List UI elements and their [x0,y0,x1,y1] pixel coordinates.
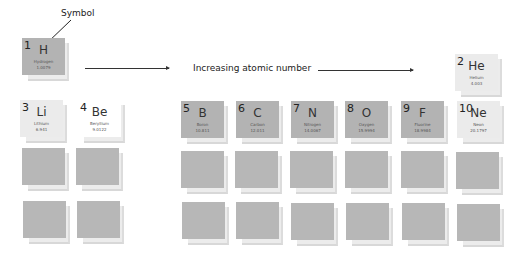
element-symbol: F [401,106,444,120]
element-tile-boron[interactable]: 5 B Boron 10.811 [181,101,224,138]
tile-face: 4 Be Beryllium 9.0122 [78,100,121,137]
element-tile-beryllium[interactable]: 4 Be Beryllium 9.0122 [78,100,121,137]
blank-tile [23,201,66,238]
element-tile-lithium[interactable]: 3 Li Lithium 6.941 [20,100,63,137]
blank-tile [181,151,224,188]
element-symbol: N [291,106,334,120]
atomic-mass: 18.9984 [401,128,444,133]
element-name: Boron [181,122,224,127]
tile-face: 2 He Helium 4.003 [455,54,498,91]
blank-tile [401,151,444,188]
arrow-right [318,70,413,71]
element-tile-fluorine[interactable]: 9 F Fluorine 18.9984 [401,101,444,138]
blank-tile [457,204,500,241]
tile-face: 6 C Carbon 12.011 [236,101,279,138]
element-symbol: Be [78,105,121,119]
tile-face: 8 O Oxygen 15.9994 [345,101,388,138]
atomic-mass: 20.1797 [457,128,500,133]
element-symbol: C [236,106,279,120]
tile-face: 7 N Nitrogen 14.0067 [291,101,334,138]
blank-tile [402,203,445,240]
tile-face: 1 H Hydrogen 1.0079 [22,38,65,75]
element-tile-neon[interactable]: 10 Ne Neon 20.1797 [457,101,500,138]
element-name: Lithium [20,121,63,126]
tile-face: 3 Li Lithium 6.941 [20,100,63,137]
element-symbol: O [345,106,388,120]
blank-tile [182,202,225,239]
atomic-mass: 9.0122 [78,127,121,132]
symbol-annotation: Symbol [61,8,95,18]
element-symbol: Ne [457,106,500,120]
atomic-mass: 14.0067 [291,128,334,133]
axis-label: Increasing atomic number [193,63,311,73]
element-name: Nitrogen [291,122,334,127]
blank-tile [22,148,65,185]
atomic-mass: 15.9994 [345,128,388,133]
element-name: Oxygen [345,122,388,127]
atomic-mass: 6.941 [20,127,63,132]
element-tile-hydrogen[interactable]: 1 H Hydrogen 1.0079 [22,38,65,75]
arrow-left [85,68,169,69]
atomic-mass: 1.0079 [22,65,65,70]
atomic-mass: 12.011 [236,128,279,133]
tile-face: 10 Ne Neon 20.1797 [457,101,500,138]
blank-tile [291,203,334,240]
element-name: Helium [455,75,498,80]
element-name: Fluorine [401,122,444,127]
blank-tile [345,151,388,188]
tile-face: 9 F Fluorine 18.9984 [401,101,444,138]
atomic-mass: 10.811 [181,128,224,133]
blank-tile [346,203,389,240]
element-tile-helium[interactable]: 2 He Helium 4.003 [455,54,498,91]
blank-tile [76,148,119,185]
blank-tile [290,151,333,188]
element-symbol: H [22,43,65,57]
blank-tile [456,152,499,189]
element-name: Hydrogen [22,59,65,64]
element-tile-nitrogen[interactable]: 7 N Nitrogen 14.0067 [291,101,334,138]
blank-tile [77,201,120,238]
element-tile-carbon[interactable]: 6 C Carbon 12.011 [236,101,279,138]
element-name: Neon [457,122,500,127]
element-symbol: He [455,59,498,73]
blank-tile [236,202,279,239]
element-name: Carbon [236,122,279,127]
atomic-mass: 4.003 [455,81,498,86]
tile-face: 5 B Boron 10.811 [181,101,224,138]
element-tile-oxygen[interactable]: 8 O Oxygen 15.9994 [345,101,388,138]
element-name: Beryllium [78,121,121,126]
blank-tile [235,151,278,188]
element-symbol: B [181,106,224,120]
element-symbol: Li [20,105,63,119]
